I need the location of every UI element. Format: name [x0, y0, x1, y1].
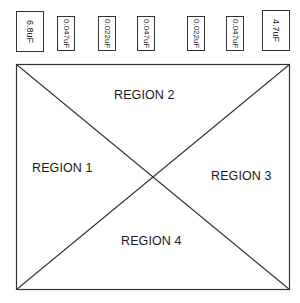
region-3-label: REGION 3: [211, 169, 272, 183]
board-outline: [0, 0, 300, 303]
region-1-label: REGION 1: [32, 161, 93, 175]
region-4-label: REGION 4: [121, 234, 182, 248]
region-2-label: REGION 2: [114, 88, 175, 102]
